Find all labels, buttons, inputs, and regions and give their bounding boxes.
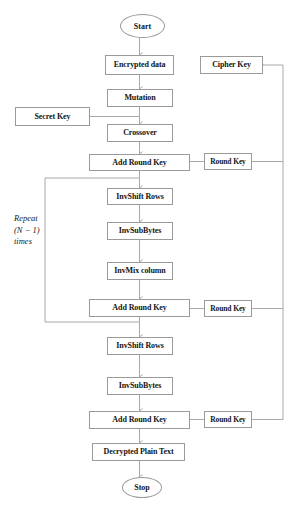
- node-invmix-column-label: InvMix column: [114, 267, 165, 275]
- node-round-key-2-label: Round Key: [210, 305, 246, 313]
- node-invshift-rows-2-label: InvShift Rows: [116, 342, 163, 350]
- node-crossover-label: Crossover: [123, 129, 157, 137]
- node-invshift-rows-1: InvShift Rows: [107, 188, 173, 205]
- node-invsubbytes-1-label: InvSubBytes: [119, 227, 161, 235]
- node-encrypted-data-label: Encrypted data: [114, 61, 166, 69]
- node-encrypted-data: Encrypted data: [105, 55, 174, 75]
- node-round-key-1-label: Round Key: [210, 158, 246, 166]
- node-mutation: Mutation: [107, 89, 173, 107]
- node-add-round-key-2: Add Round Key: [89, 299, 190, 317]
- flowchart-connectors: [0, 0, 295, 508]
- node-cipher-key-label: Cipher Key: [212, 61, 251, 69]
- node-add-round-key-3-label: Add Round Key: [112, 416, 166, 424]
- node-decrypted-plain-text-label: Decrypted Plain Text: [104, 448, 174, 456]
- node-invsubbytes-1: InvSubBytes: [107, 222, 173, 240]
- node-add-round-key-1: Add Round Key: [89, 154, 190, 171]
- node-round-key-1: Round Key: [204, 153, 252, 170]
- terminator-stop: Stop: [122, 477, 162, 498]
- node-invsubbytes-2-label: InvSubBytes: [119, 382, 161, 390]
- terminator-start-label: Start: [134, 22, 151, 31]
- terminator-start: Start: [120, 14, 165, 38]
- node-add-round-key-1-label: Add Round Key: [112, 159, 166, 167]
- node-round-key-3: Round Key: [204, 411, 252, 428]
- node-cipher-key: Cipher Key: [200, 56, 263, 74]
- repeat-loop-line-2: (N − 1): [14, 225, 40, 237]
- node-invshift-rows-2: InvShift Rows: [107, 337, 173, 355]
- node-round-key-3-label: Round Key: [210, 416, 246, 424]
- node-invsubbytes-2: InvSubBytes: [107, 377, 173, 395]
- repeat-loop-line-3: times: [14, 236, 40, 248]
- flowchart-canvas: Start Encrypted data Cipher Key Mutation…: [0, 0, 295, 508]
- node-invmix-column: InvMix column: [107, 262, 173, 280]
- terminator-stop-label: Stop: [134, 483, 150, 492]
- repeat-loop-line-1: Repeat: [14, 213, 40, 225]
- node-mutation-label: Mutation: [124, 94, 155, 102]
- node-add-round-key-3: Add Round Key: [89, 411, 190, 429]
- node-secret-key-label: Secret Key: [35, 113, 71, 121]
- repeat-loop-annotation: Repeat (N − 1) times: [14, 213, 40, 248]
- node-add-round-key-2-label: Add Round Key: [112, 304, 166, 312]
- node-secret-key: Secret Key: [15, 107, 90, 126]
- node-invshift-rows-1-label: InvShift Rows: [116, 193, 163, 201]
- node-decrypted-plain-text: Decrypted Plain Text: [92, 443, 185, 461]
- node-crossover: Crossover: [107, 124, 173, 142]
- node-round-key-2: Round Key: [204, 300, 252, 317]
